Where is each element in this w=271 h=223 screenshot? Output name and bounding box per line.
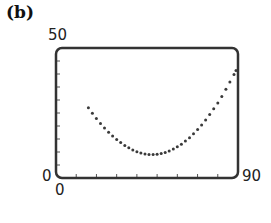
data-point — [180, 143, 183, 146]
data-point — [103, 127, 106, 130]
data-point — [235, 69, 238, 72]
data-point — [95, 117, 98, 120]
data-point — [135, 150, 138, 153]
data-point — [99, 122, 102, 125]
data-point — [123, 144, 126, 147]
data-point — [233, 73, 236, 76]
data-point — [192, 132, 195, 135]
data-point — [168, 150, 171, 153]
data-point — [87, 106, 90, 109]
data-point — [176, 145, 179, 148]
data-point — [196, 128, 199, 131]
data-point — [111, 135, 114, 138]
data-point — [152, 153, 155, 156]
data-dots — [87, 69, 238, 156]
data-point — [156, 153, 159, 156]
data-point — [148, 153, 151, 156]
data-point — [224, 88, 227, 91]
data-point — [188, 136, 191, 139]
data-point — [200, 124, 203, 127]
plot-frame — [56, 48, 238, 178]
data-point — [131, 148, 134, 151]
data-point — [208, 113, 211, 116]
data-point — [119, 141, 122, 144]
data-point — [212, 107, 215, 110]
axis-ticks — [56, 61, 218, 178]
data-point — [115, 138, 118, 141]
data-point — [216, 101, 219, 104]
data-point — [204, 119, 207, 122]
data-point — [160, 152, 163, 155]
plot-area — [0, 0, 271, 223]
data-point — [220, 95, 223, 98]
data-point — [144, 153, 147, 156]
data-point — [127, 146, 130, 149]
data-point — [91, 112, 94, 115]
data-point — [164, 151, 167, 154]
data-point — [184, 140, 187, 143]
data-point — [139, 152, 142, 155]
data-point — [228, 81, 231, 84]
data-point — [107, 131, 110, 134]
data-point — [172, 148, 175, 151]
